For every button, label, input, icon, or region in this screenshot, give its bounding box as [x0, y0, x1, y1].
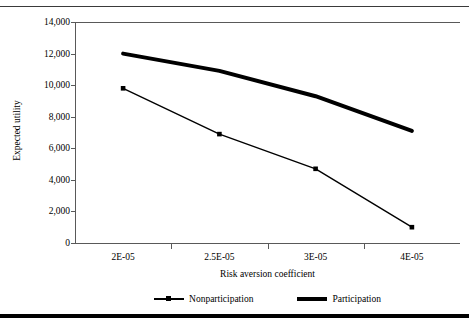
- series-line: [123, 88, 412, 227]
- data-point-marker: [410, 225, 415, 230]
- y-axis-tick-mark: [71, 211, 75, 212]
- data-point-marker: [313, 167, 318, 172]
- legend-label: Participation: [332, 294, 381, 305]
- y-axis-tick-mark: [71, 117, 75, 118]
- x-axis-tick-label: 3E-05: [271, 252, 361, 263]
- chart-legend: Nonparticipation Participation: [75, 291, 460, 307]
- legend-item-participation[interactable]: Participation: [297, 294, 381, 305]
- y-axis-tick-mark: [71, 243, 75, 244]
- legend-line-marker-icon: [154, 294, 184, 304]
- y-axis-tick-mark: [71, 54, 75, 55]
- y-axis-tick-mark: [71, 148, 75, 149]
- x-axis-tick-label: 4E-05: [367, 252, 457, 263]
- data-point-marker: [121, 86, 126, 91]
- y-axis-tick-mark: [71, 85, 75, 86]
- series-line: [123, 54, 412, 131]
- x-axis-tick-mark: [268, 244, 269, 249]
- x-axis-tick-label: 2.5E-05: [174, 252, 264, 263]
- figure-bottom-rule: [0, 314, 469, 318]
- x-axis-title: Risk aversion coefficient: [75, 269, 460, 280]
- x-axis-tick-mark: [364, 244, 365, 249]
- y-axis-tick-mark: [71, 180, 75, 181]
- data-point-marker: [217, 132, 222, 137]
- expected-utility-line-chart: Expected utility 14,00012,00010,0008,000…: [0, 0, 469, 324]
- y-axis-tick-mark: [71, 22, 75, 23]
- x-axis-tick-mark: [171, 244, 172, 249]
- x-axis-tick-label: 2E-05: [78, 252, 168, 263]
- legend-item-nonparticipation[interactable]: Nonparticipation: [154, 294, 253, 305]
- legend-label: Nonparticipation: [189, 294, 253, 305]
- legend-line-icon: [297, 294, 327, 304]
